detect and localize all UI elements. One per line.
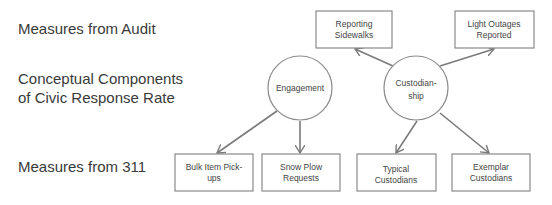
typical-label-1: Typical [383,164,410,174]
custodianship-label-1: Custodian- [395,78,436,88]
component-engagement: Engagement [268,56,332,120]
arrow-custodianship-typical [396,121,417,153]
arrow-engagement-bulk [217,111,277,153]
outages-label-1: Light Outages [468,19,521,29]
exemplar-label-1: Exemplar [473,162,509,172]
engagement-label: Engagement [276,83,325,93]
bulk-label-1: Bulk Item Pick- [186,162,243,172]
exemplar-label-2: Custodians [470,173,513,183]
arrow-custodianship-sidewalks [355,49,393,66]
arrow-custodianship-outages [440,49,494,66]
diagram: Engagement Custodian- ship Reporting Sid… [0,0,552,205]
sidewalks-label-1: Reporting [336,19,373,29]
sidewalks-label-2: Sidewalks [335,30,373,40]
arrows [217,49,494,153]
custodianship-label-2: ship [408,91,424,101]
arrow-custodianship-exemplar [440,113,489,153]
snow-label-1: Snow Plow [280,162,323,172]
bulk-label-2: ups [207,173,221,183]
typical-label-2: Custodians [375,175,418,185]
component-custodianship: Custodian- ship [384,56,448,120]
snow-label-2: Requests [283,173,319,183]
outages-label-2: Reported [477,30,512,40]
